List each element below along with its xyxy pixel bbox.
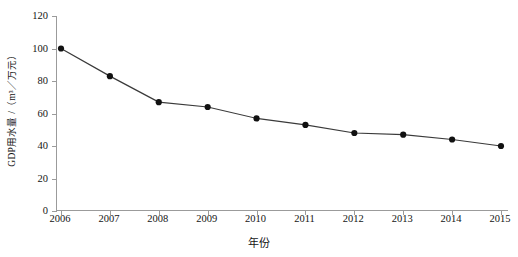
x-axis-tick-labels: 2006200720082009201020112012201320142015 (56, 214, 508, 232)
data-point-marker (253, 115, 259, 121)
data-point-marker (107, 73, 113, 79)
y-axis-title-label: GDP用水量 /（m³／万元） (4, 49, 18, 166)
x-axis-tick-label: 2007 (98, 214, 119, 225)
x-axis-tick-label: 2014 (441, 214, 462, 225)
data-point-marker (351, 130, 357, 136)
x-axis-tick-label: 2011 (294, 214, 315, 225)
data-point-marker (400, 132, 406, 138)
y-axis-tick-label: 100 (32, 43, 48, 54)
y-axis-tick-mark (52, 179, 57, 180)
data-point-marker (156, 99, 162, 105)
line-chart: GDP用水量 /（m³／万元） 020406080100120 20062007… (0, 0, 518, 257)
y-axis-tick-mark (52, 114, 57, 115)
y-axis-tick-mark (52, 16, 57, 17)
data-series-svg (57, 16, 509, 211)
data-point-marker (449, 136, 455, 142)
data-point-marker (302, 122, 308, 128)
y-axis-tick-label: 20 (38, 173, 49, 184)
plot-area (56, 16, 508, 211)
series-line (61, 49, 501, 147)
x-axis-tick-label: 2012 (343, 214, 364, 225)
data-point-marker (58, 45, 64, 51)
y-axis-tick-mark (52, 49, 57, 50)
y-axis-tick-label: 80 (38, 76, 49, 87)
data-point-marker (498, 143, 504, 149)
x-axis-tick-label: 2015 (490, 214, 511, 225)
series-markers (58, 45, 504, 149)
y-axis-tick-mark (52, 211, 57, 212)
x-axis-tick-label: 2006 (50, 214, 71, 225)
y-axis-tick-labels: 020406080100120 (18, 0, 52, 220)
x-axis-tick-label: 2013 (392, 214, 413, 225)
data-point-marker (205, 104, 211, 110)
y-axis-tick-mark (52, 146, 57, 147)
x-axis-tick-label: 2009 (196, 214, 217, 225)
x-axis-tick-label: 2008 (147, 214, 168, 225)
y-axis-tick-label: 0 (43, 206, 48, 217)
y-axis-tick-label: 60 (38, 108, 49, 119)
y-axis-tick-mark (52, 81, 57, 82)
x-axis-title: 年份 (0, 234, 518, 250)
x-axis-tick-label: 2010 (245, 214, 266, 225)
y-axis-tick-label: 120 (32, 11, 48, 22)
y-axis-tick-label: 40 (38, 141, 49, 152)
